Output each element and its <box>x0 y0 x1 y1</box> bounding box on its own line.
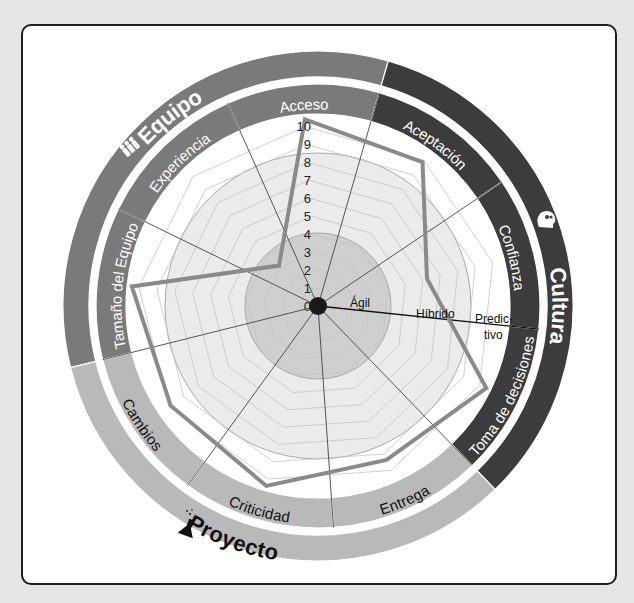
tick-label: 7 <box>304 173 311 188</box>
zone-label-hibrido: Híbrido <box>416 307 455 321</box>
tick-label: 1 <box>304 281 311 296</box>
tick-label: 9 <box>304 137 311 152</box>
radar-chart: EquipoCulturaProyecto AccesoAceptaciónCo… <box>0 0 634 603</box>
center-dot <box>309 297 327 315</box>
tick-label: 10 <box>297 119 311 134</box>
tick-label: 5 <box>304 209 311 224</box>
tick-label: 4 <box>304 227 311 242</box>
group-label-cultura: Cultura <box>545 266 573 347</box>
tick-label: 2 <box>304 263 311 278</box>
zone-label-predictivo-2: tivo <box>484 328 503 342</box>
zone-label-predictivo: Predic- <box>475 312 513 326</box>
zone-label-agil: Ágil <box>350 295 370 310</box>
tick-label: 8 <box>304 155 311 170</box>
tick-label: 6 <box>304 191 311 206</box>
tick-label: 3 <box>304 245 311 260</box>
